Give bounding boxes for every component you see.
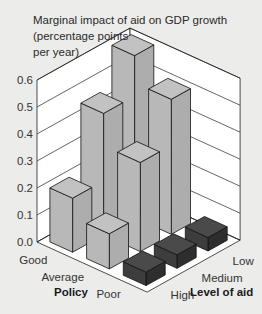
- z-tick-label: 0.2: [17, 182, 33, 194]
- chart-title-line-1: Marginal impact of aid on GDP growth: [33, 14, 227, 26]
- policy-label: Average: [41, 271, 84, 283]
- chart-title-line-3: per year): [33, 46, 79, 58]
- aid-label: Low: [233, 255, 255, 267]
- y-axis-title: Level of aid: [190, 286, 253, 298]
- chart-title-line-2: (percentage points: [33, 30, 129, 42]
- bar: [87, 213, 129, 269]
- x-axis-title: Policy: [54, 286, 88, 298]
- z-tick-label: 0.3: [17, 155, 33, 167]
- z-tick-label: 0.0: [17, 236, 33, 248]
- z-tick-label: 0.5: [17, 101, 33, 113]
- z-tick-label: 0.6: [17, 74, 33, 86]
- bar: [50, 177, 92, 252]
- policy-label: Poor: [96, 288, 120, 300]
- aid-label: Medium: [202, 272, 243, 284]
- policy-label: Good: [19, 254, 47, 266]
- z-tick-label: 0.1: [17, 209, 33, 221]
- z-tick-label: 0.4: [17, 128, 34, 140]
- z-axis-ticks: 0.00.10.20.30.40.50.6: [17, 74, 34, 248]
- 3d-bar-chart: 0.00.10.20.30.40.50.6 Marginal impact of…: [0, 0, 262, 314]
